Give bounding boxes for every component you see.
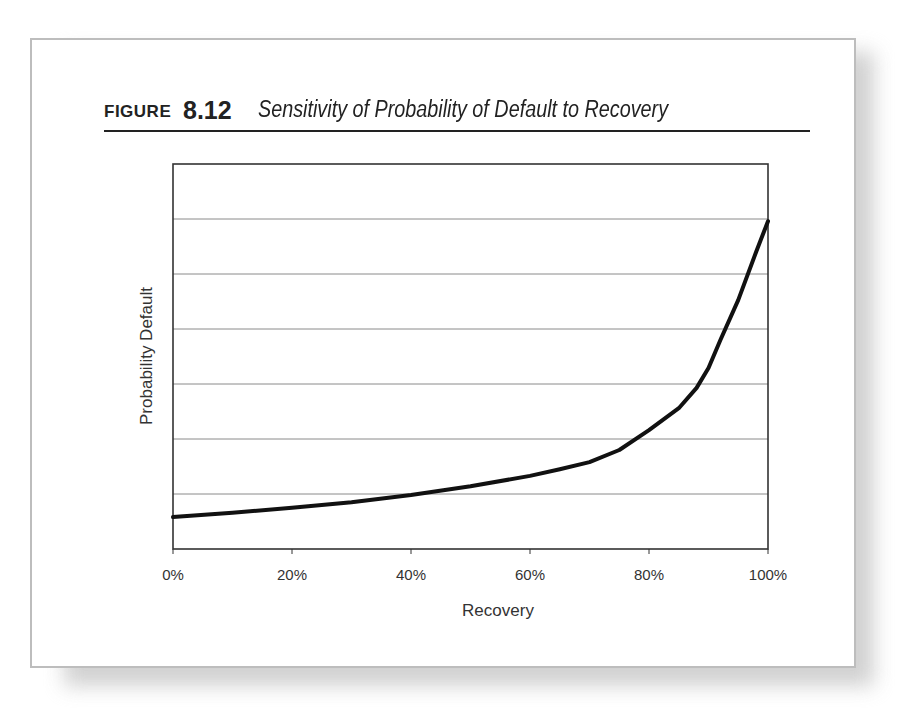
x-tick-label: 40% [396, 566, 426, 583]
y-axis-label: Probability Default [137, 287, 157, 425]
gridlines [173, 219, 768, 494]
series-line [173, 221, 768, 517]
x-axis-label: Recovery [462, 601, 534, 621]
x-tick-label: 60% [515, 566, 545, 583]
x-tick-label: 20% [277, 566, 307, 583]
x-tick-label: 100% [749, 566, 787, 583]
plot-frame [173, 164, 768, 549]
line-chart [0, 0, 901, 723]
x-tick-label: 0% [162, 566, 184, 583]
x-tick-label: 80% [634, 566, 664, 583]
